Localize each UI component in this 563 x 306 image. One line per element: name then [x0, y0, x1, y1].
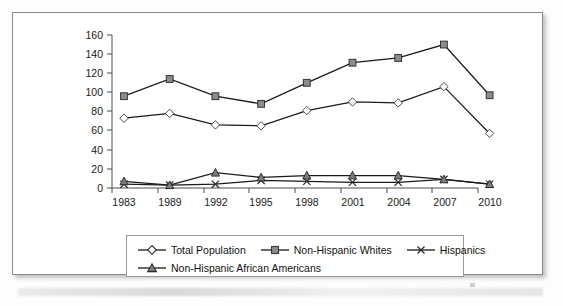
data-point	[303, 79, 310, 86]
data-point	[166, 76, 173, 83]
x-tick-label: 2007	[433, 196, 457, 208]
series-layer	[120, 41, 494, 189]
x-tick-label: 1992	[204, 196, 228, 208]
plot-area: 160 140 120 100 80 60 40 20	[13, 13, 544, 223]
x-tick-label: 2010	[478, 196, 502, 208]
square-marker-icon	[260, 244, 290, 256]
legend-item-hispanics[interactable]: Hispanics	[406, 244, 486, 256]
legend-item-total-population[interactable]: Total Population	[137, 244, 246, 256]
line-chart-svg: 160 140 120 100 80 60 40 20	[13, 13, 544, 223]
data-point	[395, 55, 402, 62]
legend-item-non-hispanic-african-americans[interactable]: Non-Hispanic African Americans	[137, 262, 321, 274]
legend-label: Hispanics	[440, 244, 486, 256]
y-tick-label: 80	[91, 105, 103, 117]
data-point	[486, 92, 493, 99]
y-tick-label: 100	[85, 86, 103, 98]
legend-label: Total Population	[171, 244, 246, 256]
x-tick-label: 1998	[295, 196, 319, 208]
y-tick-label: 60	[91, 124, 103, 136]
data-point	[348, 98, 356, 106]
y-tick-label: 40	[91, 144, 103, 156]
data-point	[258, 100, 265, 107]
series-total-population	[120, 82, 494, 137]
y-tick-label: 140	[85, 48, 103, 60]
legend-label: Non-Hispanic Whites	[294, 244, 392, 256]
data-point	[349, 59, 356, 66]
x-tick-label: 2004	[387, 196, 411, 208]
x-axis-ticks: 1983 1989 1992 1995 1998 2001 2004 2007 …	[112, 188, 502, 208]
chart-legend: Total Population Non-Hispanic Whites	[126, 235, 464, 277]
page-scan-artifact	[18, 288, 543, 296]
data-point	[394, 99, 402, 107]
legend-item-non-hispanic-whites[interactable]: Non-Hispanic Whites	[260, 244, 392, 256]
data-point	[257, 122, 265, 130]
legend-label: Non-Hispanic African Americans	[171, 262, 321, 274]
data-point	[121, 93, 128, 100]
data-point	[211, 169, 219, 177]
y-tick-label: 160	[85, 29, 103, 41]
chart-frame: 160 140 120 100 80 60 40 20	[12, 12, 543, 275]
y-axis-ticks: 160 140 120 100 80 60 40 20	[85, 29, 112, 194]
data-point	[212, 93, 219, 100]
triangle-marker-icon	[137, 262, 167, 274]
diamond-marker-icon	[137, 244, 167, 256]
legend-row-1: Total Population Non-Hispanic Whites	[137, 241, 463, 259]
x-tick-label: 2001	[341, 196, 365, 208]
x-tick-label: 1989	[158, 196, 182, 208]
cross-marker-icon	[406, 244, 436, 256]
scanned-page: 160 140 120 100 80 60 40 20	[0, 0, 563, 306]
y-tick-label: 20	[91, 163, 103, 175]
data-point	[166, 109, 174, 117]
data-point	[120, 114, 128, 122]
data-point	[211, 121, 219, 129]
x-tick-label: 1995	[249, 196, 273, 208]
page-speck	[470, 283, 475, 287]
legend-row-2: Non-Hispanic African Americans	[137, 259, 463, 277]
series-non-hispanic-whites	[121, 41, 493, 107]
y-tick-label: 120	[85, 67, 103, 79]
y-tick-label: 0	[97, 182, 103, 194]
data-point	[441, 41, 448, 48]
x-tick-label: 1983	[112, 196, 136, 208]
data-point	[303, 106, 311, 114]
